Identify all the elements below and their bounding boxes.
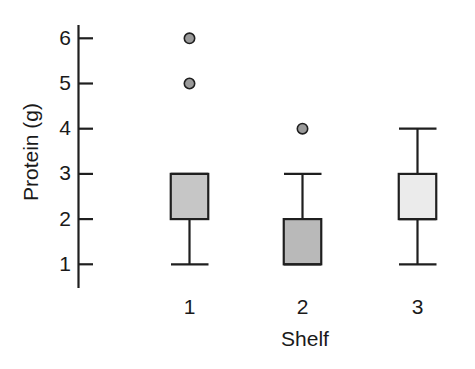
y-tick-label-3: 3 — [59, 161, 71, 184]
box-2 — [284, 219, 322, 264]
outlier-point-2a — [297, 124, 307, 134]
y-axis-title: Protein (g) — [19, 103, 42, 201]
outlier-point-1b — [184, 33, 194, 43]
boxplot-figure: 6 5 4 3 2 1 Protein (g) — [0, 0, 475, 369]
x-tick-label-3: 3 — [412, 295, 424, 318]
x-tick-label-2: 2 — [297, 295, 309, 318]
y-tick-label-1: 1 — [59, 252, 71, 275]
y-tick-label-5: 5 — [59, 71, 71, 94]
boxplot-canvas: 6 5 4 3 2 1 Protein (g) — [0, 0, 475, 369]
outlier-point-1a — [184, 78, 194, 88]
x-tick-label-1: 1 — [184, 295, 196, 318]
box-3 — [399, 174, 437, 219]
y-tick-label-2: 2 — [59, 207, 71, 230]
x-axis-title: Shelf — [281, 327, 329, 350]
box-1 — [171, 174, 209, 219]
y-tick-label-4: 4 — [59, 116, 71, 139]
y-tick-label-6: 6 — [59, 26, 71, 49]
